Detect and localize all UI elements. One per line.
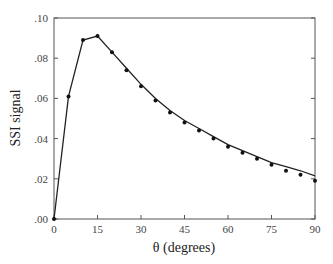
x-tick-label: 75 [266, 223, 278, 235]
data-point [154, 98, 158, 102]
y-axis-ticks: .00.02.04.06.08.10 [34, 12, 315, 225]
x-tick-label: 45 [179, 223, 191, 235]
data-point [96, 34, 100, 38]
x-tick-label: 30 [136, 223, 148, 235]
x-tick-label: 0 [51, 223, 57, 235]
y-tick-label: .00 [34, 213, 48, 225]
data-point [299, 173, 303, 177]
data-point [226, 145, 230, 149]
data-point [139, 84, 143, 88]
data-point [284, 169, 288, 173]
data-point [255, 157, 259, 161]
data-points [52, 34, 317, 221]
y-tick-label: .02 [34, 173, 48, 185]
x-tick-label: 15 [92, 223, 104, 235]
y-tick-label: .10 [34, 12, 48, 24]
plot-frame [54, 18, 315, 219]
data-point [67, 94, 71, 98]
fit-curve [54, 36, 315, 219]
data-point [212, 137, 216, 141]
chart: .00.02.04.06.08.10 0153045607590 θ (degr… [0, 0, 333, 264]
y-tick-label: .04 [34, 133, 48, 145]
data-point [183, 121, 187, 125]
y-axis-label: SSI signal [8, 89, 23, 146]
y-tick-label: .08 [34, 52, 48, 64]
data-point [110, 50, 114, 54]
data-point [197, 129, 201, 133]
data-point [270, 163, 274, 167]
data-point [52, 217, 56, 221]
x-tick-label: 90 [310, 223, 322, 235]
data-point [241, 151, 245, 155]
y-tick-label: .06 [34, 92, 48, 104]
x-axis-label: θ (degrees) [153, 240, 216, 256]
x-axis-ticks: 0153045607590 [51, 215, 321, 235]
x-tick-label: 60 [223, 223, 235, 235]
data-point [81, 38, 85, 42]
data-point [125, 68, 129, 72]
data-point [313, 179, 317, 183]
data-point [168, 110, 172, 114]
